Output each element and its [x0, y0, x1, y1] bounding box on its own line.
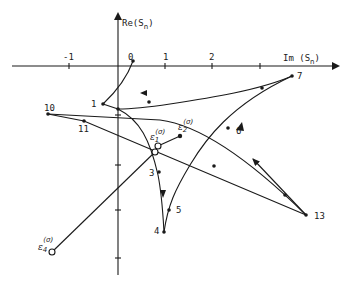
y-axis-label: Re(Sn) — [122, 18, 154, 31]
point-13 — [304, 213, 308, 217]
label-epsilon2: ε2(σ) — [178, 118, 193, 134]
point-9 — [212, 164, 216, 168]
label-point-7: 7 — [297, 71, 302, 81]
point-5 — [167, 208, 171, 212]
label-point-5: 5 — [176, 205, 181, 215]
x-axis-arrow-icon — [332, 62, 340, 70]
epsilon-link — [158, 136, 180, 146]
nyquist-diagram: Re(Sn) Im (Sn) -1 0 1 2 — [0, 0, 344, 282]
label-point-11: 11 — [78, 124, 89, 134]
point-epsilon2 — [178, 134, 182, 138]
label-epsilon1: ε1(σ) — [150, 128, 165, 144]
epsilon4-marker — [49, 249, 55, 255]
epsilon1b-marker — [152, 149, 158, 155]
point-7 — [290, 74, 294, 78]
label-point-13: 13 — [314, 211, 325, 221]
x-tick-label-1: 1 — [163, 52, 168, 62]
x-tick-label-2: 2 — [209, 52, 214, 62]
point-2 — [116, 107, 120, 111]
point-3 — [157, 170, 161, 174]
x-axis-label: Im (Sn) — [283, 53, 320, 66]
point-12 — [283, 193, 287, 197]
point-8 — [147, 100, 151, 104]
point-4 — [162, 230, 166, 234]
point-11 — [82, 119, 86, 123]
epsilon4-line — [52, 152, 155, 252]
x-tick-label-neg1: -1 — [63, 52, 74, 62]
segment-13-arrow — [253, 159, 306, 215]
point-1 — [101, 102, 105, 106]
label-point-6: 6 — [236, 126, 241, 136]
label-point-3: 3 — [149, 168, 154, 178]
point-6 — [226, 126, 230, 130]
segment-4-7 — [164, 76, 292, 232]
axes — [12, 12, 340, 275]
direction-arrow-icon — [140, 90, 147, 96]
point-7b — [260, 86, 264, 90]
segment-1-4 — [103, 104, 164, 232]
locus-curve — [48, 61, 306, 252]
label-point-1: 1 — [91, 99, 96, 109]
label-point-10: 10 — [44, 103, 55, 113]
y-axis-arrow-icon — [114, 12, 122, 20]
point-0 — [131, 59, 135, 63]
label-point-4: 4 — [154, 226, 159, 236]
